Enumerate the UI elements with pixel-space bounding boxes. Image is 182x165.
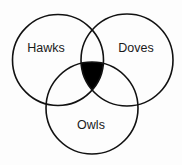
doves-circle: [81, 14, 173, 106]
owls-label: Owls: [77, 118, 105, 132]
hawks-label: Hawks: [27, 41, 65, 55]
doves-label: Doves: [118, 41, 153, 55]
hawks-circle: [13, 15, 104, 106]
venn-diagram: Hawks Doves Owls: [0, 0, 182, 165]
